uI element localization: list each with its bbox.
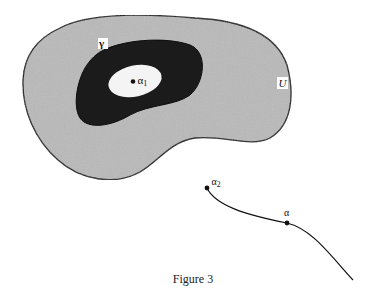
alpha-label: α [284, 207, 290, 218]
alpha2-label: α2 [212, 176, 221, 189]
point-alpha [285, 221, 290, 226]
u-label: U [279, 77, 288, 89]
point-alpha2 [205, 186, 210, 191]
curve [207, 188, 353, 280]
figure-canvas: γ U α1 α2 α Figure 3 [0, 0, 370, 291]
figure-caption: Figure 3 [173, 272, 213, 286]
point-alpha1 [131, 79, 136, 84]
gamma-label: γ [98, 37, 104, 49]
